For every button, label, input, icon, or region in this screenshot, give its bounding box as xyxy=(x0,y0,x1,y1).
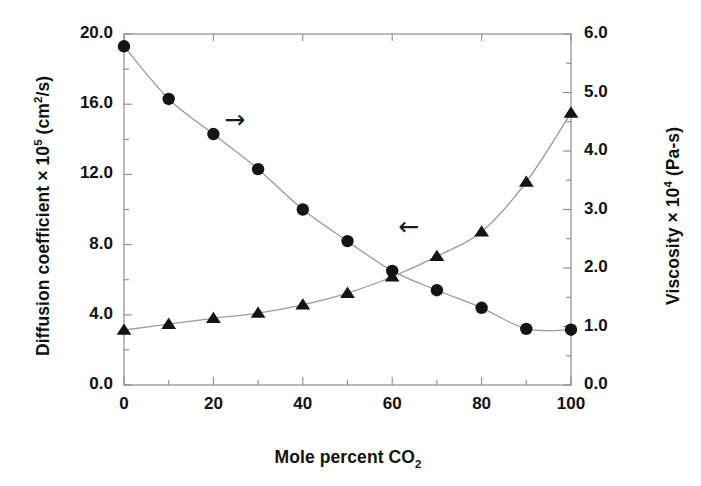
data-point xyxy=(520,323,532,335)
series-viscosity xyxy=(117,106,579,334)
data-point xyxy=(207,128,219,140)
figure-container: Diffusion coefficient × 105 (cm2/s) Visc… xyxy=(0,0,701,486)
data-point xyxy=(519,175,534,186)
data-point xyxy=(340,287,355,298)
data-point xyxy=(430,250,445,261)
data-point xyxy=(431,284,443,296)
data-point xyxy=(341,235,353,247)
plot-svg xyxy=(0,0,701,486)
data-point xyxy=(565,324,577,336)
data-point xyxy=(564,106,579,117)
data-point xyxy=(118,40,130,52)
data-point xyxy=(252,163,264,175)
data-point xyxy=(163,93,175,105)
data-point xyxy=(475,302,487,314)
data-point xyxy=(297,203,309,215)
